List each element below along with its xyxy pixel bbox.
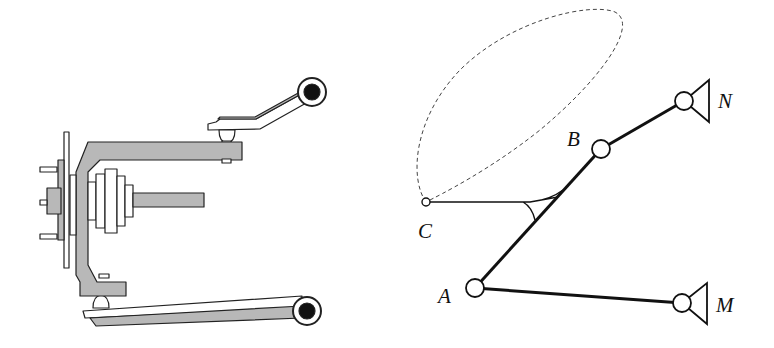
link-AB (475, 149, 601, 288)
point-C (422, 198, 430, 206)
link-AM (475, 288, 682, 303)
label-M: M (715, 293, 735, 317)
lower-control-arm (83, 296, 321, 326)
label-C: C (418, 219, 433, 243)
brake-disc (64, 132, 69, 268)
wheel-stud (40, 167, 57, 172)
link-BN (601, 101, 684, 149)
label-N: N (717, 89, 733, 113)
joint-B (592, 140, 610, 158)
wheel-stud (40, 234, 57, 239)
cv-joint (88, 169, 133, 233)
label-B: B (567, 127, 580, 151)
label-A: A (436, 284, 451, 308)
linkage-diagram: B N C A M (417, 9, 735, 324)
suspension-mechanism (40, 78, 326, 326)
upper-control-arm (208, 78, 326, 130)
joint-A (466, 279, 484, 297)
lower-ball-joint (93, 295, 109, 308)
coupler-curve (417, 9, 623, 202)
suspension-diagram: B N C A M (0, 0, 774, 348)
coupler-link (429, 190, 563, 220)
drive-shaft (133, 193, 204, 207)
wheel-stud (40, 200, 47, 205)
